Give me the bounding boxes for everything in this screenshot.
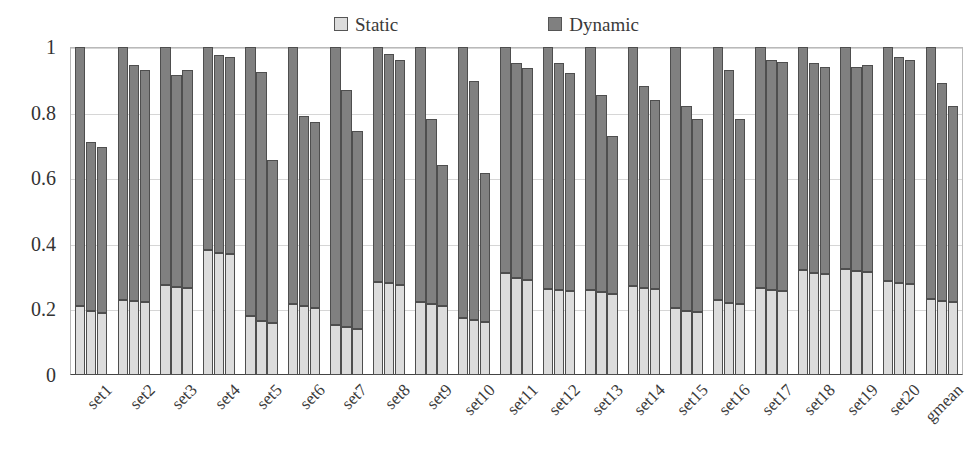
stacked-bar[interactable]	[809, 63, 819, 375]
stacked-bar[interactable]	[670, 47, 680, 375]
bar-segment-dynamic[interactable]	[225, 57, 235, 254]
bar-segment-static[interactable]	[203, 250, 213, 375]
stacked-bar[interactable]	[458, 47, 468, 375]
stacked-bar[interactable]	[948, 106, 958, 375]
stacked-bar[interactable]	[140, 70, 150, 375]
stacked-bar[interactable]	[129, 65, 139, 375]
bar-segment-dynamic[interactable]	[214, 55, 224, 253]
bar-segment-dynamic[interactable]	[415, 47, 425, 302]
bar-segment-dynamic[interactable]	[585, 47, 595, 290]
bar-segment-dynamic[interactable]	[937, 83, 947, 301]
bar-segment-static[interactable]	[75, 306, 85, 375]
stacked-bar[interactable]	[171, 75, 181, 375]
bar-segment-static[interactable]	[469, 320, 479, 375]
stacked-bar[interactable]	[735, 119, 745, 375]
stacked-bar[interactable]	[851, 67, 861, 375]
stacked-bar[interactable]	[426, 119, 436, 375]
bar-segment-dynamic[interactable]	[426, 119, 436, 304]
stacked-bar[interactable]	[415, 47, 425, 375]
bar-segment-static[interactable]	[256, 321, 266, 375]
stacked-bar[interactable]	[894, 57, 904, 375]
bar-segment-dynamic[interactable]	[500, 47, 510, 273]
stacked-bar[interactable]	[883, 47, 893, 375]
bar-segment-dynamic[interactable]	[373, 47, 383, 282]
bar-segment-static[interactable]	[395, 285, 405, 375]
bar-segment-dynamic[interactable]	[894, 57, 904, 283]
bar-segment-dynamic[interactable]	[543, 47, 553, 289]
bar-segment-dynamic[interactable]	[840, 47, 850, 269]
bar-segment-dynamic[interactable]	[670, 47, 680, 308]
bar-segment-dynamic[interactable]	[480, 173, 490, 322]
stacked-bar[interactable]	[500, 47, 510, 375]
bar-segment-dynamic[interactable]	[554, 63, 564, 290]
bar-segment-dynamic[interactable]	[650, 100, 660, 290]
stacked-bar[interactable]	[798, 47, 808, 375]
bar-segment-static[interactable]	[437, 306, 447, 375]
bar-segment-static[interactable]	[692, 312, 702, 375]
bar-segment-static[interactable]	[140, 302, 150, 375]
stacked-bar[interactable]	[937, 83, 947, 375]
stacked-bar[interactable]	[288, 47, 298, 375]
bar-segment-static[interactable]	[352, 329, 362, 375]
bar-segment-static[interactable]	[310, 308, 320, 375]
bar-segment-dynamic[interactable]	[596, 95, 606, 293]
stacked-bar[interactable]	[310, 122, 320, 375]
stacked-bar[interactable]	[203, 47, 213, 375]
bar-segment-dynamic[interactable]	[384, 54, 394, 284]
stacked-bar[interactable]	[585, 47, 595, 375]
bar-segment-dynamic[interactable]	[511, 63, 521, 278]
stacked-bar[interactable]	[97, 147, 107, 375]
bar-segment-static[interactable]	[522, 280, 532, 375]
bar-segment-dynamic[interactable]	[267, 160, 277, 322]
bar-segment-dynamic[interactable]	[395, 60, 405, 285]
bar-segment-static[interactable]	[905, 284, 915, 375]
stacked-bar[interactable]	[681, 106, 691, 375]
bar-segment-dynamic[interactable]	[203, 47, 213, 250]
stacked-bar[interactable]	[554, 63, 564, 375]
bar-segment-static[interactable]	[426, 304, 436, 375]
stacked-bar[interactable]	[437, 165, 447, 375]
bar-segment-dynamic[interactable]	[883, 47, 893, 281]
stacked-bar[interactable]	[256, 72, 266, 375]
stacked-bar[interactable]	[299, 116, 309, 375]
bar-segment-static[interactable]	[565, 291, 575, 375]
stacked-bar[interactable]	[565, 73, 575, 375]
bar-segment-dynamic[interactable]	[948, 106, 958, 302]
stacked-bar[interactable]	[341, 90, 351, 375]
stacked-bar[interactable]	[543, 47, 553, 375]
bar-segment-dynamic[interactable]	[341, 90, 351, 328]
bar-segment-static[interactable]	[735, 304, 745, 375]
stacked-bar[interactable]	[650, 99, 660, 375]
bar-segment-static[interactable]	[948, 302, 958, 375]
stacked-bar[interactable]	[777, 62, 787, 375]
bar-segment-static[interactable]	[267, 323, 277, 375]
bar-segment-static[interactable]	[214, 253, 224, 375]
stacked-bar[interactable]	[511, 63, 521, 375]
bar-segment-static[interactable]	[480, 322, 490, 375]
bar-segment-static[interactable]	[650, 289, 660, 375]
bar-segment-static[interactable]	[97, 313, 107, 375]
bar-segment-dynamic[interactable]	[713, 47, 723, 300]
stacked-bar[interactable]	[840, 47, 850, 375]
bar-segment-dynamic[interactable]	[639, 86, 649, 287]
bar-segment-dynamic[interactable]	[905, 60, 915, 284]
bar-segment-static[interactable]	[820, 274, 830, 375]
stacked-bar[interactable]	[384, 54, 394, 375]
bar-segment-dynamic[interactable]	[724, 70, 734, 303]
bar-segment-static[interactable]	[607, 294, 617, 375]
bar-segment-dynamic[interactable]	[129, 65, 139, 301]
stacked-bar[interactable]	[469, 81, 479, 375]
bar-segment-dynamic[interactable]	[97, 147, 107, 313]
bar-segment-dynamic[interactable]	[469, 81, 479, 319]
stacked-bar[interactable]	[522, 68, 532, 375]
bar-segment-static[interactable]	[384, 283, 394, 375]
bar-segment-dynamic[interactable]	[926, 47, 936, 299]
bar-segment-dynamic[interactable]	[182, 70, 192, 288]
bar-segment-dynamic[interactable]	[288, 47, 298, 304]
bar-segment-dynamic[interactable]	[458, 47, 468, 318]
stacked-bar[interactable]	[373, 47, 383, 375]
bar-segment-dynamic[interactable]	[140, 70, 150, 302]
stacked-bar[interactable]	[86, 142, 96, 375]
bar-segment-dynamic[interactable]	[160, 47, 170, 285]
stacked-bar[interactable]	[862, 65, 872, 375]
